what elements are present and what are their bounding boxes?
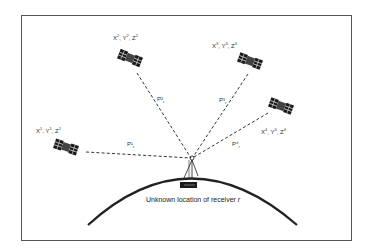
range-line-2 [137,73,191,158]
receiver-icon [180,156,198,188]
range-lines [86,73,268,158]
pseudorange-3-label: P³r [219,97,226,105]
range-line-1 [86,152,191,158]
satellite-icon [117,49,143,67]
pseudorange-4-label: P⁴r [232,141,240,149]
pseudorange-2-label: P²r [157,96,164,104]
gps-trilateration-diagram [0,0,371,250]
satellite-icon [53,139,79,156]
receiver-caption: Unknown location of receiver r [146,196,240,203]
satellite-icon [237,52,263,70]
satellite-4-coords-label: X4, Y4, Z4 [261,127,286,135]
pseudorange-1-label: P¹r [127,141,134,149]
satellite-icon [268,97,294,115]
caption-variable: r [238,196,240,203]
satellite-2-coords-label: X2, Y2, Z2 [113,33,138,41]
caption-text: Unknown location of receiver [146,196,236,203]
satellite-1-coords-label: X1, Y1, Z1 [36,126,61,134]
range-line-4 [194,113,268,157]
satellite-3-coords-label: X3, Y3, Z3 [212,41,237,49]
